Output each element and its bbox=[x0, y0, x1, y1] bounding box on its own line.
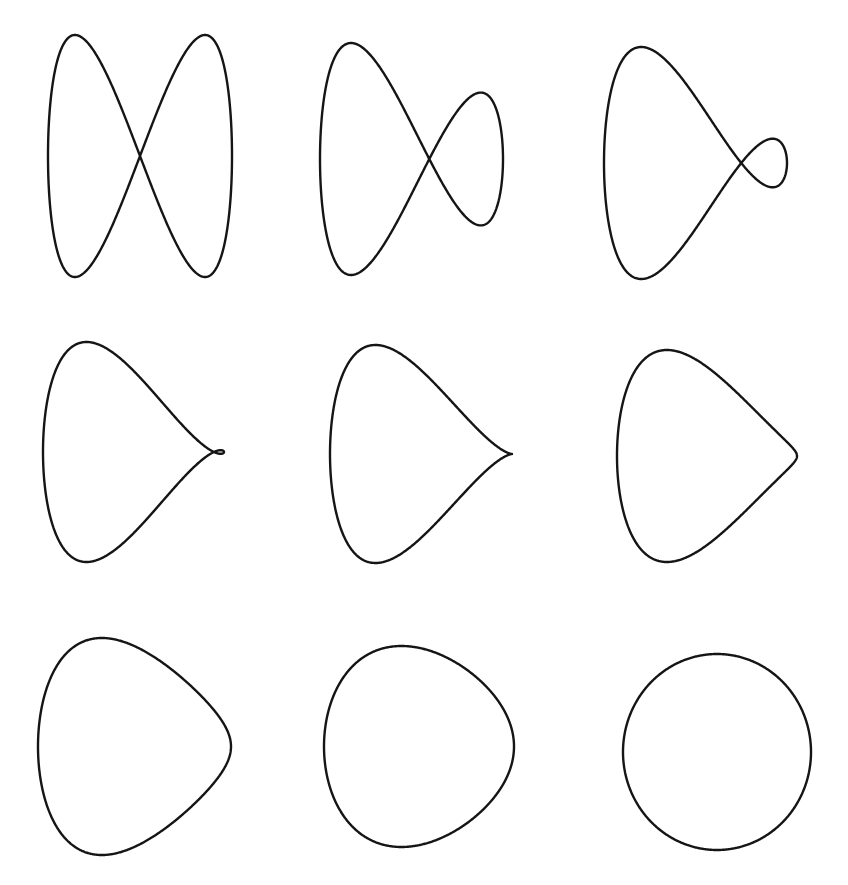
curve-panel-7 bbox=[38, 638, 231, 855]
curve-grid-figure bbox=[0, 0, 848, 885]
curve-panel-8 bbox=[324, 646, 514, 847]
curve-panel-2 bbox=[320, 43, 503, 275]
curve-panel-6 bbox=[617, 350, 797, 562]
curve-panel-1 bbox=[48, 35, 232, 277]
curve-panel-4 bbox=[43, 342, 224, 562]
curve-panel-9 bbox=[623, 654, 811, 850]
curve-panel-5 bbox=[330, 345, 512, 563]
curve-panel-3 bbox=[604, 47, 787, 279]
